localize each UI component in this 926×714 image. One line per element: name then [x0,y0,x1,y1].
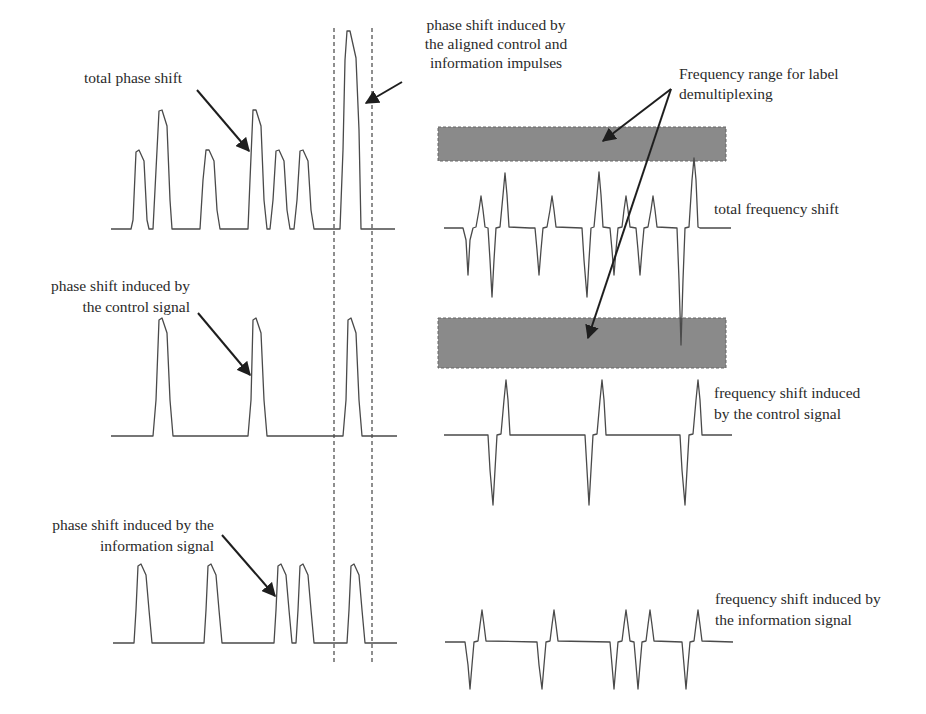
phase-frequency-shift-diagram: total phase shift phase shift induced by… [0,0,926,714]
total-phase-shift-label: total phase shift [84,69,183,86]
aligned-impulses-label-1: phase shift induced by [426,16,565,33]
aligned-impulses-label-2: the aligned control and [425,35,568,52]
information-frequency-label-1: frequency shift induced by [715,590,881,607]
control-phase-arrow [198,313,250,375]
aligned-impulses-label-3: information impulses [430,54,562,71]
information-frequency-shift-waveform [445,610,733,689]
demultiplexing-band-lower [438,318,726,368]
control-frequency-shift-waveform [444,380,732,505]
total-phase-arrow [197,90,249,151]
control-frequency-label-2: by the control signal [714,405,841,422]
demultiplexing-band-upper [438,127,726,161]
control-phase-shift-waveform [111,318,397,436]
frequency-range-label-2: demultiplexing [679,85,773,102]
control-frequency-label-1: frequency shift induced [714,384,861,401]
information-phase-arrow [222,535,275,596]
total-frequency-shift-label: total frequency shift [714,200,840,217]
control-phase-label-2: the control signal [82,298,190,315]
total-frequency-shift-waveform [444,158,731,345]
information-phase-label-2: information signal [100,537,214,554]
information-phase-shift-waveform [113,564,397,643]
information-frequency-label-2: the information signal [715,611,852,628]
control-phase-label-1: phase shift induced by [51,277,190,294]
frequency-range-label-1: Frequency range for label [679,65,839,82]
total-phase-shift-waveform [111,31,395,229]
information-phase-label-1: phase shift induced by the [52,516,214,533]
alignment-window [334,28,372,662]
frequency-range-arrow-lower [588,89,671,338]
